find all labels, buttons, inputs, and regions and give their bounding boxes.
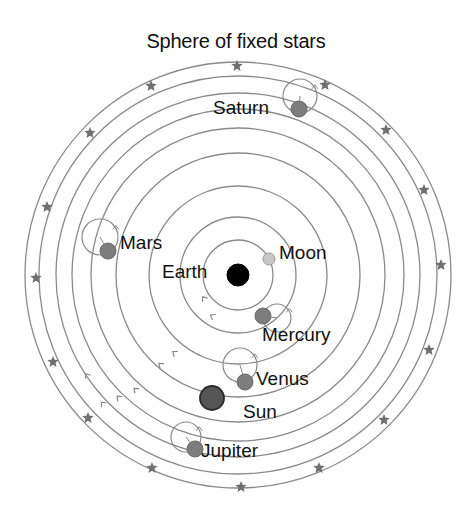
- star-icon: [319, 79, 330, 90]
- orbit-arrow-icon: [211, 314, 216, 320]
- geocentric-model-diagram: Sphere of fixed stars Saturn Mars Earth …: [0, 0, 472, 515]
- star-icon: [313, 462, 324, 473]
- venus-body: [237, 374, 253, 390]
- star-icon: [145, 80, 156, 91]
- label-sun: Sun: [243, 402, 277, 421]
- orbit-arrow-icon: [134, 388, 139, 393]
- star-icon: [30, 272, 41, 283]
- label-moon: Moon: [279, 243, 327, 262]
- mars-body: [100, 243, 116, 259]
- star-icon: [235, 481, 246, 492]
- earth-body: [227, 264, 249, 286]
- star-icon: [378, 414, 389, 425]
- star-icon: [41, 201, 52, 212]
- orbit-arrow-icon: [202, 297, 207, 302]
- orbit-arrow-icon: [101, 402, 106, 407]
- orbit-arrow-icon: [173, 351, 178, 356]
- diagram-title: Sphere of fixed stars: [0, 30, 472, 53]
- sun-body: [200, 386, 224, 410]
- diagram-canvas: [0, 0, 472, 515]
- label-jupiter: Jupiter: [201, 441, 258, 460]
- moon-body: [263, 253, 275, 265]
- saturn-body: [291, 101, 307, 117]
- label-venus: Venus: [256, 369, 309, 388]
- label-mars: Mars: [120, 233, 162, 252]
- orbit-arrow-icon: [117, 396, 122, 401]
- label-earth: Earth: [162, 262, 207, 281]
- star-icon: [84, 127, 95, 138]
- star-icon: [423, 344, 434, 355]
- mercury-body: [255, 308, 271, 324]
- label-mercury: Mercury: [262, 325, 331, 344]
- label-saturn: Saturn: [213, 98, 269, 117]
- orbit-arrow-icon: [159, 363, 164, 368]
